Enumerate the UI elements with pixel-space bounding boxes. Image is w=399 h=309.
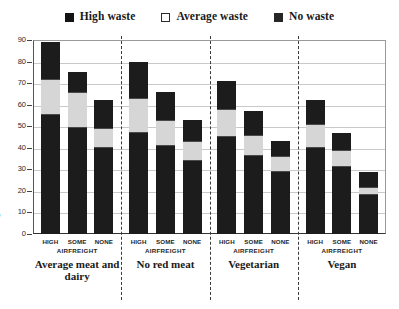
bar-segment-no xyxy=(244,156,263,234)
x-axis-tick-label: SOME xyxy=(68,238,87,245)
legend-label-average-waste: Average waste xyxy=(176,11,248,23)
x-axis-group-label: Vegetarian xyxy=(210,258,298,270)
stacked-bar[interactable] xyxy=(332,133,351,234)
legend-item-no-waste: No waste xyxy=(274,11,334,23)
x-axis-tick-label: NONE xyxy=(94,238,113,245)
y-axis-title: kgCO2e xyxy=(0,179,1,239)
x-axis-tick-label: HIGH xyxy=(129,238,148,245)
bar-segment-average xyxy=(156,120,175,146)
legend-swatch-average-waste xyxy=(161,13,170,22)
bar-segment-no xyxy=(306,148,325,234)
bar-segment-average xyxy=(271,156,290,171)
stacked-bar[interactable] xyxy=(183,120,202,234)
bar-segment-no xyxy=(129,133,148,234)
bar-segment-high xyxy=(156,92,175,120)
bar-groups xyxy=(33,40,386,234)
y-axis-tick xyxy=(27,191,32,192)
bar-segment-no xyxy=(156,146,175,234)
x-axis-tick-labels: HIGHSOMENONE xyxy=(298,234,386,245)
y-axis-tick xyxy=(27,148,32,149)
y-axis-tick-label: 20 xyxy=(4,187,26,195)
y-axis-tick xyxy=(27,83,32,84)
x-axis-tick-label: HIGH xyxy=(306,238,325,245)
y-axis-tick-label: 40 xyxy=(4,144,26,152)
bar-segment-average xyxy=(94,128,113,147)
stacked-bar[interactable] xyxy=(217,81,236,234)
bar-segment-high xyxy=(183,120,202,142)
y-axis-tick xyxy=(27,169,32,170)
bar-segment-no xyxy=(332,167,351,234)
bar-segment-high xyxy=(306,100,325,124)
x-axis-group-label: No red meat xyxy=(121,258,209,270)
y-axis-tick xyxy=(27,126,32,127)
x-axis: HIGHSOMENONEAIRFREIGHTAverage meat and d… xyxy=(33,234,386,309)
x-axis-tick-label: NONE xyxy=(271,238,290,245)
y-axis-tick xyxy=(27,62,32,63)
bar-segment-no xyxy=(41,115,60,234)
bar-segment-no xyxy=(271,172,290,235)
x-axis-tick-label: NONE xyxy=(359,238,378,245)
bar-segment-no xyxy=(359,195,378,234)
bar-segment-no xyxy=(94,148,113,234)
stacked-bar[interactable] xyxy=(306,100,325,234)
y-axis-tick-label: 30 xyxy=(4,165,26,173)
x-axis-tick-label: SOME xyxy=(244,238,263,245)
x-axis-group-label: Vegan xyxy=(298,258,386,270)
bar-segment-average xyxy=(183,141,202,160)
stacked-bar[interactable] xyxy=(359,172,378,234)
bar-segment-average xyxy=(359,187,378,196)
y-axis-tick xyxy=(27,234,32,235)
x-axis-tick-label: SOME xyxy=(332,238,351,245)
x-axis-sub-label-airfreight: AIRFREIGHT xyxy=(210,247,298,254)
bar-segment-high xyxy=(68,72,87,91)
x-axis-sub-label-airfreight: AIRFREIGHT xyxy=(33,247,121,254)
y-axis-tick-label: 10 xyxy=(4,208,26,216)
x-axis-tick-label: HIGH xyxy=(217,238,236,245)
bar-segment-average xyxy=(68,92,87,129)
bar-segment-no xyxy=(217,137,236,234)
stacked-bar[interactable] xyxy=(68,72,87,234)
bar-segment-high xyxy=(332,133,351,150)
legend-item-average-waste: Average waste xyxy=(161,11,248,23)
y-axis-tick-label: 50 xyxy=(4,122,26,130)
bar-group xyxy=(121,40,209,234)
x-axis-sub-label-airfreight: AIRFREIGHT xyxy=(121,247,209,254)
x-axis-group-label: Average meat and dairy xyxy=(33,258,121,282)
legend-label-high-waste: High waste xyxy=(80,11,136,23)
x-axis-group: HIGHSOMENONEAIRFREIGHTVegetarian xyxy=(210,234,298,309)
bar-segment-high xyxy=(129,62,148,99)
x-axis-tick-labels: HIGHSOMENONE xyxy=(121,234,209,245)
bar-segment-high xyxy=(217,81,236,109)
stacked-bar-chart: High waste Average waste No waste kgCO2e… xyxy=(0,0,399,309)
x-axis-tick-labels: HIGHSOMENONE xyxy=(33,234,121,245)
bar-segment-average xyxy=(129,98,148,132)
x-axis-tick-label: HIGH xyxy=(41,238,60,245)
legend-swatch-no-waste xyxy=(274,13,283,22)
stacked-bar[interactable] xyxy=(129,62,148,234)
y-axis-title-subscript: 2 xyxy=(0,213,1,217)
bar-group xyxy=(33,40,121,234)
bar-segment-high xyxy=(41,42,60,79)
bar-segment-high xyxy=(359,172,378,187)
bar-segment-high xyxy=(244,111,263,135)
bar-segment-average xyxy=(217,109,236,137)
stacked-bar[interactable] xyxy=(271,141,290,234)
y-axis-tick-label: 0 xyxy=(4,230,26,238)
stacked-bar[interactable] xyxy=(244,111,263,234)
x-axis-tick-label: SOME xyxy=(156,238,175,245)
bar-segment-average xyxy=(306,124,325,148)
legend-label-no-waste: No waste xyxy=(289,11,334,23)
bar-segment-no xyxy=(183,161,202,234)
bar-segment-average xyxy=(41,79,60,116)
y-axis-tick-label: 90 xyxy=(4,36,26,44)
stacked-bar[interactable] xyxy=(41,42,60,234)
y-axis-tick-label: 60 xyxy=(4,101,26,109)
stacked-bar[interactable] xyxy=(156,92,175,234)
bar-segment-average xyxy=(332,150,351,167)
x-axis-group: HIGHSOMENONEAIRFREIGHTNo red meat xyxy=(121,234,209,309)
stacked-bar[interactable] xyxy=(94,100,113,234)
x-axis-tick-label: NONE xyxy=(183,238,202,245)
bar-segment-high xyxy=(94,100,113,128)
x-axis-tick-labels: HIGHSOMENONE xyxy=(210,234,298,245)
bar-segment-average xyxy=(244,135,263,157)
